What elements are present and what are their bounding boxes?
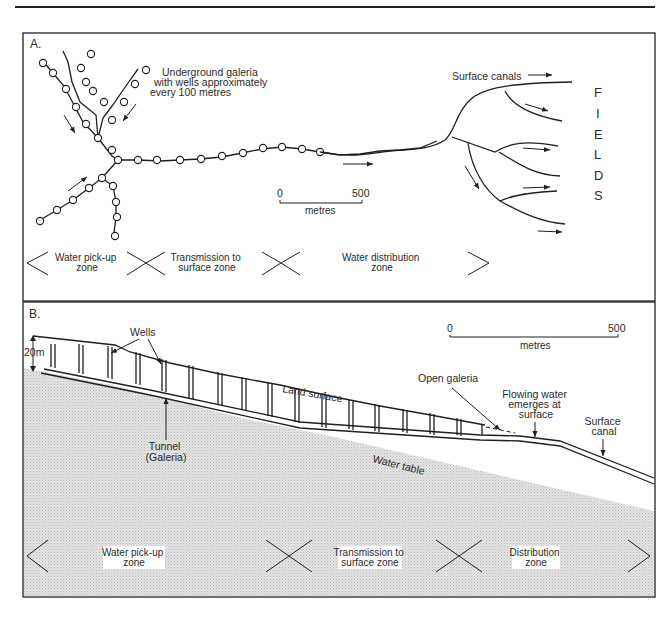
- fields-label: F I E L D S: [594, 85, 603, 203]
- panel-b: B.: [23, 302, 655, 597]
- panel-b-scale-bar: 0 500 metres: [447, 322, 626, 351]
- land-surface-label: Land surface: [282, 382, 344, 404]
- svg-text:metres: metres: [520, 340, 551, 351]
- svg-text:500: 500: [352, 187, 370, 199]
- svg-text:metres: metres: [305, 205, 336, 216]
- depth-marker: 20m: [24, 335, 45, 372]
- surface-canal-label: Surface canal: [584, 415, 623, 437]
- svg-text:E: E: [594, 127, 603, 142]
- svg-text:Water pick-up zone: Water pick-up zone: [55, 252, 119, 273]
- svg-text:20m: 20m: [24, 346, 45, 358]
- svg-text:0: 0: [277, 187, 283, 199]
- svg-text:L: L: [594, 147, 601, 162]
- svg-text:0: 0: [447, 322, 453, 334]
- tunnel-label: Tunnel (Galeria): [146, 440, 187, 463]
- svg-text:500: 500: [608, 322, 626, 334]
- wells-label: Wells: [130, 326, 155, 338]
- panel-a: A.: [23, 33, 655, 301]
- panel-b-letter: B.: [29, 307, 40, 321]
- svg-text:F: F: [594, 85, 602, 100]
- svg-text:Transmission to surfac: Transmission to surface zone: [171, 252, 244, 273]
- qanat-diagram: A.: [0, 0, 670, 617]
- panel-a-letter: A.: [30, 37, 41, 51]
- svg-text:Transmission to surfac: Transmission to surface zone: [334, 547, 407, 568]
- galeria-label: Underground galeria with wells approxima…: [150, 66, 270, 98]
- open-galeria-label: Open galeria: [418, 372, 478, 384]
- svg-text:I: I: [596, 106, 600, 121]
- surface-canals-label: Surface canals: [452, 70, 521, 82]
- svg-text:D: D: [594, 168, 603, 183]
- svg-text:Water distribution zon: Water distribution zone: [342, 252, 422, 273]
- svg-text:S: S: [594, 188, 603, 203]
- panel-a-zones: Water pick-up zone Transmission to surfa…: [27, 252, 489, 275]
- flowing-water-label: Flowing water emerges at surface: [502, 388, 570, 420]
- panel-a-scale-bar: 0 500 metres: [277, 187, 370, 216]
